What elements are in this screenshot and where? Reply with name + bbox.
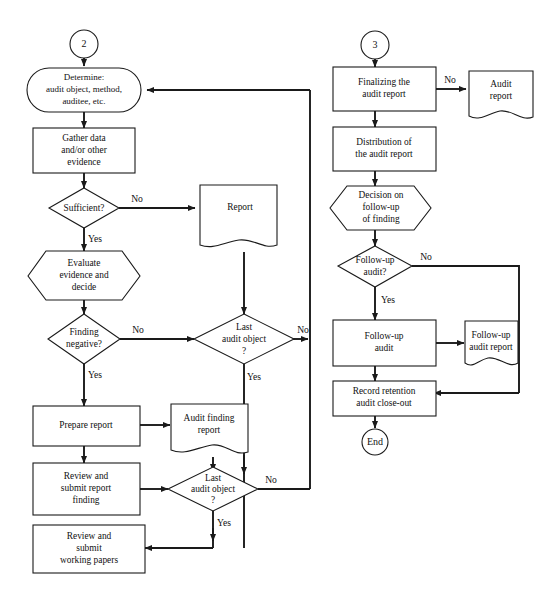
node-finding-negative-line1: Finding [69,327,98,337]
node-review-submit-working-papers-line2: submit [76,543,102,553]
node-review-submit-report-finding-line3: finding [72,495,99,505]
node-decision-follow-up-line3: of finding [362,214,400,224]
node-follow-up-audit-report-line2: audit report [469,342,513,352]
node-gather-data-line2: and/or other [61,145,107,155]
label-finalizing-no: No [444,74,456,85]
connector-circle-3-label: 3 [373,39,378,50]
node-evaluate-line3: decide [72,282,96,292]
node-finding-negative-line2: negative? [66,339,102,349]
node-last-audit-object-top-line1: Last [236,322,253,332]
label-lastobj-top-yes: Yes [247,371,261,382]
node-report-label: Report [227,202,253,212]
node-sufficient-label: Sufficient? [64,203,105,213]
node-record-retention-line2: audit close-out [356,398,412,408]
node-follow-up-audit-line2: audit [375,343,394,353]
node-review-submit-report-finding-line1: Review and [64,471,109,481]
node-determine-line3: auditee, etc. [62,96,105,106]
node-review-submit-report-finding-line2: submit report [61,483,112,493]
label-lastobj-bottom-yes: Yes [217,517,231,528]
label-finding-negative-yes: Yes [88,369,102,380]
node-follow-up-audit-decision-line2: audit? [364,267,387,277]
node-review-submit-working-papers-line3: working papers [60,555,118,565]
label-follow-up-yes: Yes [381,294,395,305]
node-last-audit-object-bottom-line2: audit object [191,484,235,494]
node-finalizing-audit-report-line2: audit report [362,89,406,99]
label-lastobj-top-no: No [297,324,309,335]
flowchart-canvas: 2 Determine: audit object, method, audit… [0,0,548,593]
flowchart-svg: 2 Determine: audit object, method, audit… [0,0,548,593]
node-follow-up-audit-report-line1: Follow-up [471,330,510,340]
node-gather-data-line1: Gather data [62,133,106,143]
node-determine-line1: Determine: [64,72,104,82]
node-evaluate-line1: Evaluate [68,258,101,268]
node-audit-finding-report-line2: report [198,425,221,435]
connector-circle-2-label: 2 [82,38,87,49]
node-evaluate-line2: evidence and [59,270,109,280]
node-audit-report-line2: report [490,91,513,101]
node-audit-report-line1: Audit [490,79,512,89]
node-last-audit-object-bottom-line3: ? [211,495,215,505]
node-report-document [200,185,277,247]
node-last-audit-object-top-line2: audit object [222,334,266,344]
node-distribution-audit-report-line1: Distribution of [356,137,412,147]
label-lastobj-bottom-no: No [265,474,277,485]
node-distribution-audit-report-line2: the audit report [355,149,413,159]
label-follow-up-no: No [420,251,432,262]
node-decision-follow-up-line1: Decision on [358,190,403,200]
node-follow-up-audit-decision-line1: Follow-up [355,255,394,265]
node-finalizing-audit-report-line1: Finalizing the [358,77,410,87]
label-sufficient-yes: Yes [88,233,102,244]
node-gather-data-line3: evidence [67,157,100,167]
node-review-submit-working-papers-line1: Review and [67,531,112,541]
node-record-retention-line1: Record retention [353,386,416,396]
node-follow-up-audit-line1: Follow-up [364,331,403,341]
connector-circle-end-label: End [367,436,383,447]
node-audit-finding-report-line1: Audit finding [184,413,235,423]
node-determine-line2: audit object, method, [46,84,122,94]
label-sufficient-no: No [131,193,143,204]
node-prepare-report-label: Prepare report [59,420,113,430]
node-last-audit-object-bottom-line1: Last [205,473,222,483]
node-last-audit-object-top-line3: ? [242,346,246,356]
node-decision-follow-up-line2: follow-up [363,202,400,212]
label-finding-negative-no: No [132,324,144,335]
